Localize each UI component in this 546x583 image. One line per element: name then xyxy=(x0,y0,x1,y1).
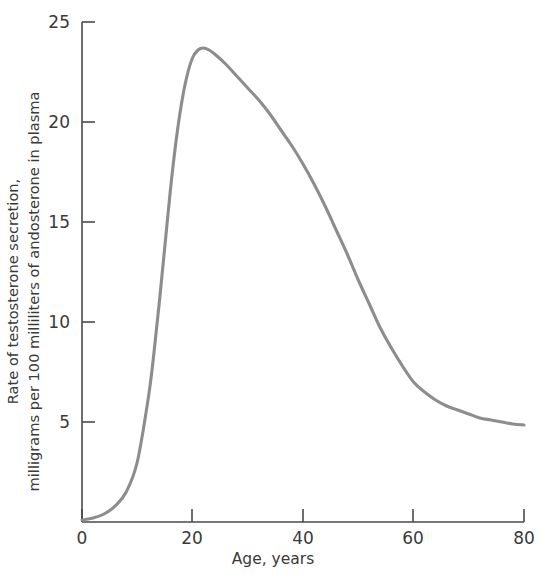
x-axis-ticks xyxy=(82,509,524,522)
chart-plot-area xyxy=(0,0,546,583)
y-tick-label-20: 20 xyxy=(30,112,70,132)
y-axis-ticks xyxy=(82,22,95,422)
chart-figure: 25 20 15 10 5 0 20 40 60 80 Age, years R… xyxy=(0,0,546,583)
y-tick-label-5: 5 xyxy=(30,412,70,432)
x-tick-label-80: 80 xyxy=(513,528,535,548)
x-axis-title: Age, years xyxy=(0,550,546,568)
y-tick-label-25: 25 xyxy=(30,12,70,32)
y-tick-label-10: 10 xyxy=(30,312,70,332)
x-tick-label-40: 40 xyxy=(292,528,314,548)
x-tick-label-20: 20 xyxy=(181,528,203,548)
data-series-line xyxy=(82,48,524,520)
x-tick-label-60: 60 xyxy=(402,528,424,548)
x-tick-label-0: 0 xyxy=(77,528,88,548)
y-tick-label-15: 15 xyxy=(30,212,70,232)
